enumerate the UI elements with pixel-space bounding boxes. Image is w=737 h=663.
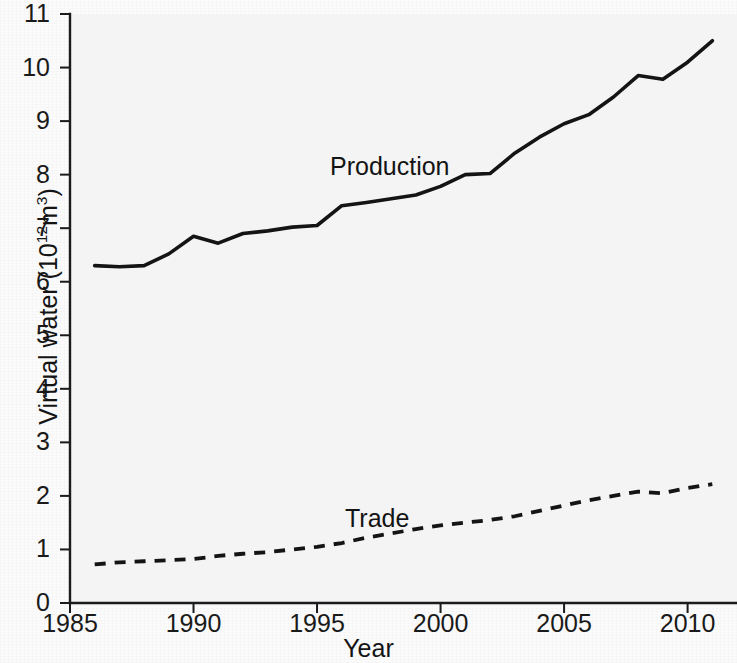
chart-figure: 01234567891011 198519901995200020052010 … (0, 0, 737, 663)
series-label-trade: Trade (345, 504, 409, 533)
series-group (95, 41, 713, 565)
y-tick-label-9: 9 (4, 108, 50, 133)
y-tick-label-2: 2 (4, 483, 50, 508)
x-tick-label-2000: 2000 (396, 611, 486, 636)
series-label-production: Production (330, 152, 450, 181)
y-axis-label: Virtual water (1012m3) (34, 137, 63, 477)
y-tick-label-11: 11 (4, 1, 50, 26)
chart-canvas (0, 0, 737, 663)
y-tick-label-10: 10 (4, 55, 50, 80)
x-tick-label-1995: 1995 (272, 611, 362, 636)
x-tick-label-1985: 1985 (25, 611, 115, 636)
x-tick-label-2010: 2010 (643, 611, 733, 636)
x-tick-label-2005: 2005 (519, 611, 609, 636)
y-tick-label-1: 1 (4, 536, 50, 561)
x-axis-label: Year (0, 634, 737, 663)
x-tick-label-1990: 1990 (149, 611, 239, 636)
